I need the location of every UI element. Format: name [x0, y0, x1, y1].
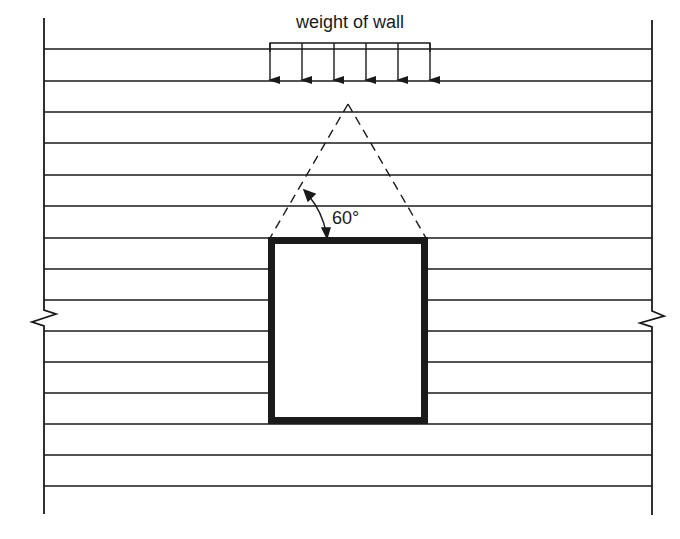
weight-of-wall-label: weight of wall [0, 12, 680, 33]
load-bracket [270, 43, 430, 52]
load-triangle-right-side [348, 104, 426, 238]
angle-arrowhead-bottom [322, 228, 330, 238]
angle-arrowhead-top [304, 190, 315, 201]
angle-arc [309, 196, 326, 232]
lintel-load-diagram [0, 0, 680, 539]
angle-indicator [304, 190, 330, 238]
left-wall-edge-with-break [32, 18, 56, 514]
right-wall-edge-with-break [640, 20, 664, 515]
angle-label: 60° [332, 208, 359, 229]
wall-opening [272, 241, 425, 421]
